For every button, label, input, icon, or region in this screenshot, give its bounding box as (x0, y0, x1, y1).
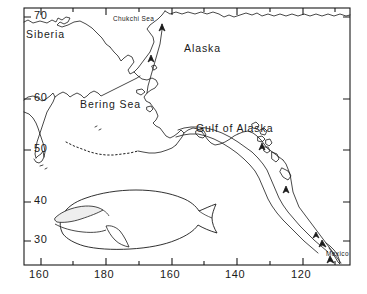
label-mexico: Mexico (326, 250, 349, 257)
label-gulf-of-alaska: Gulf of Alaska (196, 122, 273, 134)
label-alaska: Alaska (184, 42, 221, 54)
vancouver-island (280, 168, 291, 180)
migration-route-offshore (176, 134, 318, 253)
x-tick-label: 140 (225, 268, 245, 280)
y-tick-label: 50 (34, 142, 47, 154)
y-tick-label: 30 (34, 233, 47, 245)
aleutian-islands-chain (66, 142, 138, 155)
nunivak-island (147, 106, 153, 112)
y-tick-label: 40 (34, 194, 47, 206)
label-bering-sea: Bering Sea (80, 98, 141, 110)
commander-islands (40, 165, 47, 169)
alaska-peninsula (138, 145, 176, 153)
x-tick-label: 160 (29, 268, 49, 280)
st-lawrence-island (137, 89, 145, 95)
arrow-baja-tip (327, 256, 334, 263)
bowhead-whale-drawing (55, 190, 217, 249)
whale-migration-map: Siberia Alaska Bering Sea Chukchi Sea Gu… (0, 0, 367, 294)
label-chukchi-sea: Chukchi Sea (113, 15, 154, 22)
kamchatka-east (55, 76, 140, 98)
arrow-bering-strait (148, 55, 154, 62)
y-tick-label: 60 (34, 91, 47, 103)
y-tick-label: 70 (34, 9, 47, 21)
x-tick-label: 180 (94, 268, 114, 280)
label-siberia: Siberia (26, 28, 65, 40)
x-tick-label: 160 (160, 268, 180, 280)
alaska-west-coast (150, 103, 184, 145)
alexander-archipelago-4 (266, 139, 272, 146)
arrow-bc-coast (283, 186, 289, 193)
whale-body-outline (60, 190, 217, 249)
pribilof-islands (95, 126, 101, 130)
x-tick-label: 120 (291, 268, 311, 280)
queen-charlotte-islands (272, 152, 279, 162)
alaska-north-coast (165, 11, 350, 17)
migration-route-coastal (178, 127, 328, 252)
